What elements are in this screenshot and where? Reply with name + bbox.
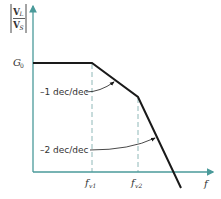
svg-text:v1: v1 (89, 182, 96, 189)
annotation-arrow-2 (90, 138, 155, 150)
bode-plot: V L V S G 0 –1 dec/dec –2 dec/dec f v1 f… (0, 0, 221, 199)
slope-label-2: –2 dec/dec (40, 145, 89, 155)
svg-text:L: L (19, 10, 24, 17)
fv2-tick-label: f v2 (130, 177, 142, 189)
annotation-arrow-1 (86, 82, 114, 92)
g0-tick-label: G 0 (13, 57, 24, 69)
magnitude-curve (33, 63, 181, 188)
y-axis-label: V L V S (11, 4, 26, 33)
fv1-tick-label: f v1 (84, 177, 96, 189)
x-axis-label: f (203, 178, 210, 189)
slope-label-1: –1 dec/dec (40, 87, 89, 97)
svg-text:0: 0 (20, 62, 24, 69)
svg-text:v2: v2 (135, 182, 142, 189)
svg-text:S: S (20, 24, 24, 31)
